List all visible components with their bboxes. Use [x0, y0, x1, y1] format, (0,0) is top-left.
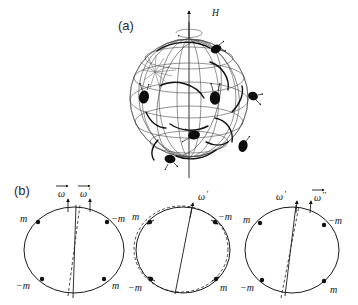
magnetic-field-label: H [211, 8, 220, 18]
circle-2-omega-prime-axis [175, 207, 192, 294]
circle-3-omega-prime-label: ω [276, 191, 283, 202]
circle-3-omega-double-prime-axis [281, 206, 299, 298]
circle-3-mass-label: m [243, 214, 250, 225]
circle-2-mass-label: −m [218, 211, 232, 222]
circle-3-mass-dot [322, 223, 326, 227]
circle-3-mass-label: −m [328, 215, 342, 226]
circle-3-mass-dot [322, 279, 326, 283]
particle [247, 90, 263, 105]
circle-1-omega-axis [68, 205, 80, 296]
particle-trajectories [146, 42, 243, 160]
sphere-particles [138, 41, 263, 170]
circle-3-group: ω ′ ω ′′ m −m −m m [240, 189, 342, 298]
circle-2-omega-prime-label: ω [198, 191, 205, 202]
figure-canvas: (a) H [0, 0, 358, 305]
circle-3-mass-label: m [330, 284, 337, 295]
circle-2-mass-label: m [220, 282, 227, 293]
circle-1-mass-dot [102, 277, 106, 281]
circle-3-omega-prime-mark: ′ [284, 189, 287, 199]
circle-2-omega-prime-arrow [190, 203, 193, 218]
circle-1-mass-label: −m [16, 280, 30, 291]
particle [209, 41, 226, 55]
circle-2-omega-prime-mark: ′ [206, 189, 209, 199]
circle-2-group: ω ′ m [128, 189, 232, 294]
circle-1-mass-dot [40, 277, 44, 281]
circle-1-mass-label: −m [111, 213, 125, 224]
circle-1-mass-dot [105, 220, 109, 224]
circle-3-omega-double-prime-label: ω [314, 192, 321, 203]
circle-1-omega-prime-axis [73, 205, 76, 298]
circle-3-omega-double-prime-mark: ′′ [322, 190, 327, 200]
panel-a-label: (a) [118, 18, 134, 33]
circle-1-mass-dot [36, 220, 40, 224]
panel-a-group: (a) H [118, 8, 263, 178]
physics-figure: (a) H [0, 0, 358, 305]
circle-1-mass-label: m [20, 213, 27, 224]
circle-1-group: ω ω ′ m −m −m m [16, 186, 125, 298]
circle-3-omega-double-prime-arrow [310, 201, 311, 213]
circle-1-omega-prime-mark: ′ [88, 186, 91, 196]
circle-2-mass-label: m [132, 211, 139, 222]
panel-b-label: (b) [14, 183, 30, 198]
circle-2-mass-dot [147, 220, 154, 224]
circle-2-mass-label: −m [128, 282, 142, 293]
circle-1-mass-label: m [112, 280, 119, 291]
circle-1-omega-prime-label: ω [80, 188, 87, 199]
circle-3-omega-prime-arrow [296, 201, 297, 213]
circle-3-mass-label: −m [240, 282, 254, 293]
circle-1-omega-label: ω [58, 188, 65, 199]
particle [138, 83, 150, 104]
circle-2-mass-dot [212, 277, 219, 281]
panel-b-group: (b) ω ω ′ [14, 183, 342, 298]
circle-3-mass-dot [258, 221, 262, 225]
circle-3-mass-dot [260, 278, 264, 282]
particle [237, 136, 250, 153]
